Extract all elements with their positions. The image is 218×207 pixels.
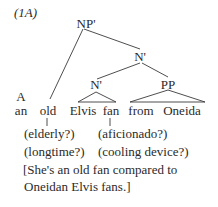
gloss-elderly: (elderly?) (24, 127, 75, 141)
node-np-bar: NP' (77, 17, 96, 31)
word-oneida: Oneida (163, 104, 201, 118)
paraphrase-line-2: Oneidan Elvis fans.] (24, 180, 131, 194)
word-an: an (15, 104, 27, 118)
gloss-longtime: (longtime?) (24, 145, 85, 159)
word-elvis: Elvis (70, 104, 97, 118)
gloss-cooling-device: (cooling device?) (98, 145, 189, 159)
node-det-label: A (16, 90, 25, 104)
paraphrase-line-1: [She's an old fan compared to (23, 163, 177, 177)
example-label: (1A) (14, 6, 37, 20)
word-fan: fan (103, 104, 120, 118)
node-n-bar-lower: N' (90, 78, 102, 92)
word-old: old (40, 104, 57, 118)
gloss-aficionado: (aficionado?) (98, 127, 167, 141)
node-n-bar-upper: N' (134, 50, 146, 64)
node-pp: PP (161, 78, 175, 92)
word-from: from (128, 104, 153, 118)
